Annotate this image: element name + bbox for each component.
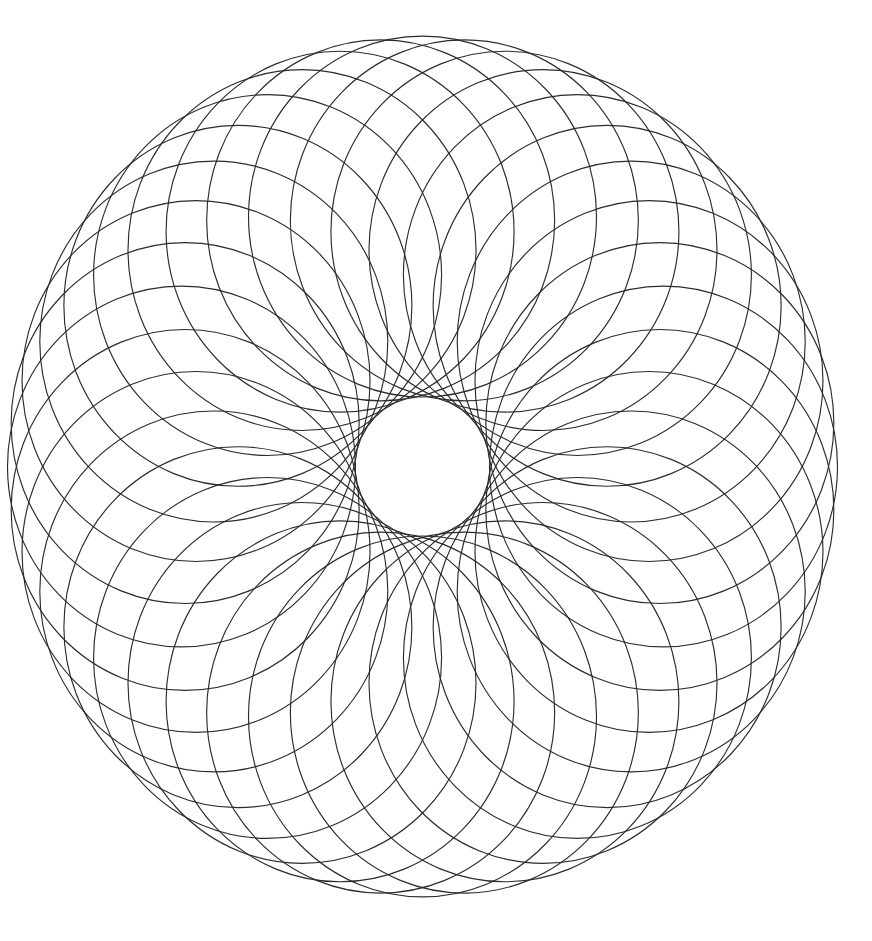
rosette-circle	[22, 201, 370, 562]
rosette-circle	[433, 125, 781, 486]
rosette-circle	[403, 478, 751, 839]
rosette-circle	[331, 51, 679, 412]
rosette-circle	[433, 447, 781, 808]
rosette-circle	[403, 95, 751, 456]
rosette-circle	[249, 536, 597, 897]
rosette-circle	[166, 521, 514, 882]
rosette-circle	[94, 95, 442, 456]
rosette-circle	[8, 286, 356, 647]
rosette-circle	[490, 286, 838, 647]
rosette-circle	[331, 521, 679, 882]
rosette-circle	[475, 201, 823, 562]
rosette-canvas	[0, 0, 872, 941]
rosette-circle	[64, 447, 412, 808]
rosette-circle	[64, 125, 412, 486]
rosette-circle	[94, 478, 442, 839]
rosette-circle	[22, 372, 370, 733]
rosette-circle	[166, 51, 514, 412]
rosette-circle	[475, 372, 823, 733]
rosette-circles-group	[8, 36, 838, 897]
rosette-circle	[249, 36, 597, 397]
